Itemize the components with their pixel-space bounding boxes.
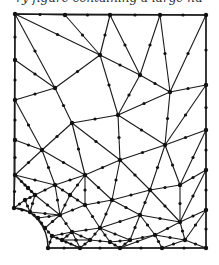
mid-side-node — [13, 156, 16, 159]
mid-side-node — [143, 201, 146, 204]
corner-node — [116, 113, 120, 117]
mid-side-node — [55, 135, 58, 138]
mid-side-node — [97, 186, 100, 189]
corner-node — [63, 13, 67, 17]
mid-side-node — [172, 242, 175, 245]
mid-side-node — [133, 13, 136, 16]
mid-side-node — [158, 217, 161, 220]
corner-node — [178, 183, 182, 187]
mid-side-node — [56, 198, 59, 201]
mid-side-node — [107, 83, 110, 86]
mid-side-node — [64, 222, 67, 225]
mid-side-node — [13, 35, 16, 38]
mid-side-node — [136, 240, 139, 243]
corner-node — [13, 12, 17, 16]
mid-side-node — [27, 143, 30, 146]
mid-side-node — [123, 242, 126, 245]
mid-side-node — [71, 208, 74, 211]
mid-side-node — [129, 193, 132, 196]
corner-node — [98, 53, 102, 57]
mesh-nodes — [12, 12, 208, 250]
mid-side-node — [84, 228, 87, 231]
mid-side-node — [76, 70, 79, 73]
mid-side-node — [113, 232, 116, 235]
mid-side-node — [148, 43, 151, 46]
mid-side-node — [47, 166, 50, 169]
mid-side-node — [194, 223, 197, 226]
mid-side-node — [27, 123, 30, 126]
mid-side-node — [101, 166, 104, 169]
corner-node — [70, 121, 74, 125]
mid-side-node — [163, 186, 166, 189]
mid-side-node — [163, 52, 166, 55]
mid-side-node — [166, 117, 169, 120]
mid-side-node — [186, 87, 189, 90]
corner-node — [78, 246, 82, 250]
mid-side-node — [204, 106, 207, 109]
mid-side-node — [141, 236, 144, 239]
mid-side-node — [93, 117, 96, 120]
mid-side-node — [184, 136, 187, 139]
corner-node — [83, 173, 87, 177]
mid-side-node — [33, 92, 36, 95]
mid-side-node — [133, 173, 136, 176]
mid-side-node — [61, 188, 64, 191]
mid-side-node — [191, 194, 194, 197]
corner-node — [58, 213, 62, 217]
corner-node — [43, 226, 47, 230]
corner-node — [26, 186, 30, 190]
mid-side-node — [124, 206, 127, 209]
corner-node — [160, 246, 164, 250]
corner-node — [158, 13, 162, 17]
corner-node — [60, 238, 64, 242]
mid-side-node — [31, 202, 34, 205]
mid-side-node — [13, 190, 16, 193]
corner-node — [163, 143, 167, 147]
mid-side-node — [153, 82, 156, 85]
mid-side-node — [20, 208, 23, 211]
corner-node — [168, 90, 172, 94]
mid-side-node — [18, 202, 21, 205]
mid-side-node — [103, 233, 106, 236]
mid-side-node — [76, 183, 79, 186]
mesh-edges — [14, 14, 206, 248]
mid-side-node — [32, 213, 35, 216]
mid-side-node — [118, 63, 121, 66]
mid-side-node — [204, 227, 207, 230]
mid-side-node — [77, 147, 80, 150]
mid-side-node — [186, 52, 189, 55]
corner-node — [13, 138, 17, 142]
mid-side-node — [191, 156, 194, 159]
mid-side-node — [13, 118, 16, 121]
mid-side-node — [79, 234, 82, 237]
mid-side-node — [13, 78, 16, 81]
corner-node — [108, 13, 112, 17]
corner-node — [138, 213, 142, 217]
mid-side-node — [163, 204, 166, 207]
mid-side-node — [103, 33, 106, 36]
mid-side-node — [98, 239, 101, 242]
mid-side-node — [178, 202, 181, 205]
corner-node — [178, 220, 182, 224]
corner-node — [153, 233, 157, 237]
corner-node — [204, 246, 208, 250]
mid-side-node — [98, 246, 101, 249]
corner-node — [68, 193, 72, 197]
mid-side-node — [62, 246, 65, 249]
mid-side-node — [182, 246, 185, 249]
mid-side-node — [157, 240, 160, 243]
mid-side-node — [38, 13, 41, 16]
mid-side-node — [28, 196, 31, 199]
mid-side-node — [30, 190, 33, 193]
mid-side-node — [62, 161, 65, 164]
mid-side-node — [86, 13, 89, 16]
mid-side-node — [113, 243, 116, 246]
mid-side-node — [43, 188, 46, 191]
mid-side-node — [64, 240, 67, 243]
mid-side-node — [117, 136, 120, 139]
mid-side-node — [141, 151, 144, 154]
mid-side-node — [191, 214, 194, 217]
corner-node — [13, 58, 17, 62]
corner-node — [204, 208, 208, 212]
mid-side-node — [104, 212, 107, 215]
